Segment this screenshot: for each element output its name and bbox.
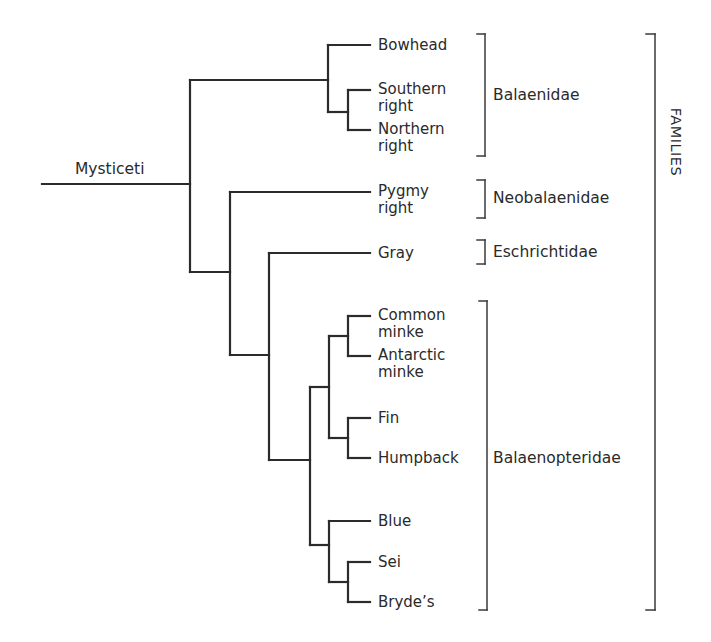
family-label-balaenidae: Balaenidae	[493, 87, 579, 104]
family-label-eschrichtidae: Eschrichtidae	[493, 244, 598, 261]
bracket-eschrichtidae	[477, 240, 485, 264]
leaf-label-line: right	[378, 200, 429, 217]
leaf-label-fin: Fin	[378, 410, 399, 427]
leaf-label-line: Antarctic	[378, 347, 445, 364]
leaf-label-line: minke	[378, 324, 446, 341]
leaf-label-blue: Blue	[378, 513, 411, 530]
leaf-label-sei: Sei	[378, 554, 401, 571]
leaf-label-line: minke	[378, 364, 445, 381]
leaf-label-southern-right: Southern right	[378, 81, 446, 115]
leaf-label-antarctic-minke: Antarctic minke	[378, 347, 445, 381]
families-axis-label: FAMILIES	[668, 108, 684, 176]
bracket-neobalaenidae	[477, 180, 485, 218]
leaf-label-line: Southern	[378, 81, 446, 98]
family-label-neobalaenidae: Neobalaenidae	[493, 190, 609, 207]
leaf-label-line: Pygmy	[378, 183, 429, 200]
bracket-balaenidae	[477, 34, 485, 156]
family-brackets	[0, 0, 711, 642]
leaf-label-line: right	[378, 98, 446, 115]
leaf-label-humpback: Humpback	[378, 450, 459, 467]
bracket-families	[646, 34, 655, 610]
family-label-balaenopteridae: Balaenopteridae	[493, 450, 621, 467]
leaf-label-common-minke: Common minke	[378, 307, 446, 341]
leaf-label-gray: Gray	[378, 245, 414, 262]
root-label-mysticeti: Mysticeti	[75, 161, 144, 178]
leaf-label-line: Common	[378, 307, 446, 324]
leaf-label-northern-right: Northern right	[378, 121, 445, 155]
leaf-label-brydes: Bryde’s	[378, 594, 435, 611]
leaf-label-line: Northern	[378, 121, 445, 138]
leaf-label-bowhead: Bowhead	[378, 37, 447, 54]
bracket-balaenopteridae	[479, 301, 487, 610]
leaf-label-pygmy-right: Pygmy right	[378, 183, 429, 217]
leaf-label-line: right	[378, 138, 445, 155]
